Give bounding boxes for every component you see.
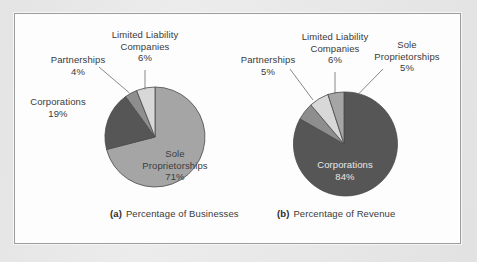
label-llc-a-line2: Companies [95, 41, 195, 53]
label-corporations-a-value: 19% [19, 108, 97, 120]
label-corporations-b-value: 84% [301, 171, 389, 183]
figure-frame: Partnerships 4% Limited Liability Compan… [14, 13, 461, 244]
label-sole-a-line2: Proprietorships [130, 160, 220, 172]
label-limited-liability-companies-a: Limited Liability Companies 6% [95, 29, 195, 64]
label-partnerships-a-value: 4% [39, 66, 117, 78]
label-corporations-a-name: Corporations [19, 96, 97, 108]
label-partnerships-b-value: 5% [229, 66, 307, 78]
label-sole-b-value: 5% [361, 62, 453, 74]
caption-b-text: Percentage of Revenue [293, 208, 395, 219]
caption-chart-b: (b)Percentage of Revenue [277, 208, 395, 219]
label-sole-a-value: 71% [130, 171, 220, 183]
label-llc-a-value: 6% [95, 52, 195, 64]
label-corporations-b: Corporations 84% [301, 159, 389, 182]
label-llc-a-line1: Limited Liability [95, 29, 195, 41]
label-sole-b-line1: Sole [361, 39, 453, 51]
caption-chart-a: (a)Percentage of Businesses [110, 208, 239, 219]
figure-inner: Partnerships 4% Limited Liability Compan… [15, 14, 460, 243]
label-sole-a-line1: Sole [130, 148, 220, 160]
label-sole-proprietorships-a: Sole Proprietorships 71% [130, 148, 220, 183]
label-sole-b-line2: Proprietorships [361, 51, 453, 63]
caption-b-marker: (b) [277, 208, 289, 219]
caption-a-marker: (a) [110, 208, 122, 219]
caption-a-text: Percentage of Businesses [126, 208, 239, 219]
label-sole-proprietorships-b: Sole Proprietorships 5% [361, 39, 453, 74]
label-corporations-a: Corporations 19% [19, 96, 97, 119]
label-corporations-b-name: Corporations [301, 159, 389, 171]
